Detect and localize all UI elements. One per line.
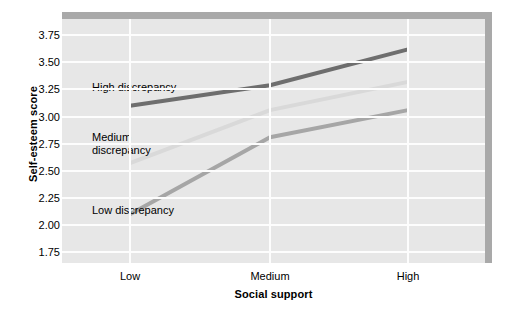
plot-shadow-top <box>62 12 492 19</box>
y-tick-label: 2.25 <box>18 192 60 203</box>
x-tick-label: Low <box>120 270 140 282</box>
annotation-medium-line2: discrepancy <box>92 144 151 156</box>
gridline-horizontal <box>62 116 485 118</box>
gridline-horizontal <box>62 224 485 226</box>
plot-shadow-right <box>485 12 492 263</box>
gridline-horizontal <box>62 251 485 253</box>
y-tick-label: 3.25 <box>18 84 60 95</box>
annotation-low-discrepancy: Low discrepancy <box>92 204 174 217</box>
y-tick-label: 2.00 <box>18 220 60 231</box>
y-tick-label: 3.75 <box>18 30 60 41</box>
y-tick-label: 2.50 <box>18 165 60 176</box>
x-tick-label: High <box>397 270 420 282</box>
y-axis-tick-labels: 3.753.503.253.002.752.502.252.001.75 <box>18 0 60 309</box>
gridline-vertical <box>269 19 271 263</box>
y-tick-label: 3.00 <box>18 111 60 122</box>
chart-figure: Self-esteem score 3.753.503.253.002.752.… <box>0 0 507 309</box>
y-tick-label: 1.75 <box>18 247 60 258</box>
plot-area: High discrepancy Mediumdiscrepancy Low d… <box>62 19 485 263</box>
gridline-horizontal <box>62 197 485 199</box>
x-axis-title: Social support <box>62 288 485 300</box>
gridline-horizontal <box>62 34 485 36</box>
gridline-vertical <box>129 19 131 263</box>
x-tick-label: Medium <box>250 270 289 282</box>
gridline-vertical <box>407 19 409 263</box>
gridline-horizontal <box>62 143 485 145</box>
gridline-horizontal <box>62 170 485 172</box>
x-axis-tick-labels: LowMediumHigh <box>62 270 492 286</box>
y-tick-label: 3.50 <box>18 57 60 68</box>
gridline-horizontal <box>62 61 485 63</box>
plot-region: High discrepancy Mediumdiscrepancy Low d… <box>62 12 492 263</box>
annotation-medium-line1: Medium <box>92 131 131 143</box>
y-tick-label: 2.75 <box>18 138 60 149</box>
gridline-horizontal <box>62 88 485 90</box>
